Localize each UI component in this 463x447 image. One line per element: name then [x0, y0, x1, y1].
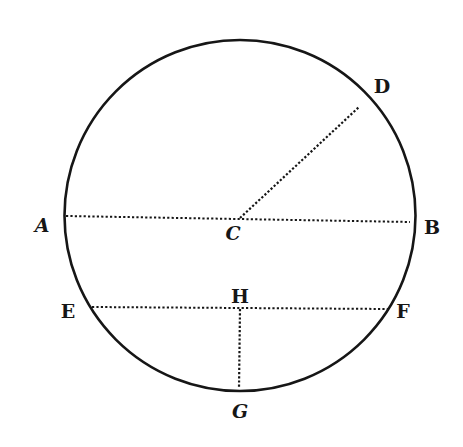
point-label-a: A [33, 214, 50, 236]
circle-diagram: A B C D E F G H [0, 0, 463, 447]
point-label-g: G [232, 400, 248, 422]
point-label-f: F [396, 300, 410, 322]
point-label-c: C [225, 222, 240, 244]
point-label-b: B [424, 216, 440, 238]
point-label-e: E [61, 300, 75, 322]
point-label-h: H [231, 285, 249, 307]
point-label-d: D [374, 75, 390, 97]
